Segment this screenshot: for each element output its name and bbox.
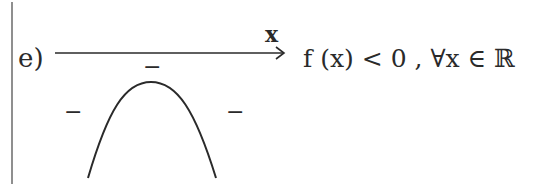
item-label: e): [18, 43, 44, 73]
sign-left: −: [64, 99, 82, 124]
axis-variable-label: x: [265, 21, 279, 47]
sign-right: −: [226, 99, 244, 124]
sign-chart-diagram: e) x − − − f (x) < 0 , ∀x ∈ ℝ: [0, 0, 537, 184]
parabola-curve: [88, 82, 216, 178]
sign-top: −: [143, 54, 161, 79]
conclusion-formula: f (x) < 0 , ∀x ∈ ℝ: [303, 44, 515, 73]
x-axis: [55, 47, 284, 59]
